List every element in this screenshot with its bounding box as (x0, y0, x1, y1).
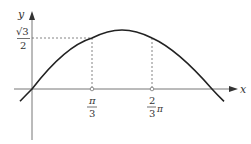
svg-text:π: π (88, 95, 96, 106)
svg-text:2: 2 (149, 95, 155, 106)
sine-graph: y x √3 2 π 3 2 3 π (0, 0, 251, 144)
x-tick-label-pi-3: π 3 (87, 95, 97, 119)
tick-2pi-3 (150, 87, 154, 91)
svg-text:3: 3 (149, 108, 155, 119)
tick-pi-3 (90, 87, 94, 91)
x-axis-label: x (240, 83, 247, 96)
svg-text:√3: √3 (16, 26, 29, 37)
svg-text:2: 2 (20, 40, 26, 51)
svg-text:π: π (156, 104, 164, 114)
y-tick-label: √3 2 (16, 26, 30, 51)
x-tick-label-2pi-3: 2 3 π (147, 95, 164, 119)
svg-text:3: 3 (89, 108, 95, 119)
sine-curve (20, 30, 224, 101)
x-axis-arrow-icon (229, 86, 238, 92)
y-axis-arrow-icon (29, 11, 35, 20)
y-axis-label: y (17, 8, 25, 21)
